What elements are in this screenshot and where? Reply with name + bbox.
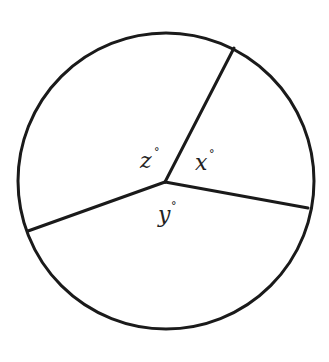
angle-y-variable: y bbox=[157, 202, 171, 227]
angle-x-variable: x bbox=[195, 150, 208, 175]
angle-label-x: x ° bbox=[195, 148, 215, 175]
degree-symbol: ° bbox=[171, 200, 177, 213]
angle-label-z: z ° bbox=[139, 146, 160, 173]
circle-diagram: z ° x ° y ° bbox=[0, 0, 329, 362]
segment-left bbox=[28, 182, 165, 231]
angle-z-variable: z bbox=[139, 148, 152, 173]
segment-right bbox=[165, 182, 308, 208]
degree-symbol: ° bbox=[154, 146, 160, 159]
angle-label-y: y ° bbox=[157, 200, 177, 227]
degree-symbol: ° bbox=[209, 148, 215, 161]
diagram-canvas: z ° x ° y ° bbox=[0, 0, 329, 362]
